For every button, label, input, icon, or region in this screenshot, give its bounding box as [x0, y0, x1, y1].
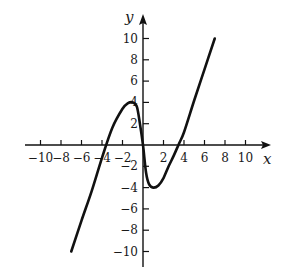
x-tick-label: −6: [73, 151, 91, 165]
y-tick-label: 8: [130, 53, 138, 67]
y-tick-label: −4: [120, 181, 138, 195]
function-graph: −10−8−6−4−2246810 108642−2−4−6−8−10 x y: [0, 0, 289, 279]
y-tick-label: 10: [123, 32, 138, 46]
x-tick-label: 6: [201, 151, 209, 165]
y-tick-label: 2: [130, 117, 138, 131]
x-tick-label: 8: [221, 151, 229, 165]
y-tick-label: −6: [120, 202, 138, 216]
x-tick-label: −10: [28, 151, 53, 165]
y-axis: [139, 14, 149, 267]
x-tick-label: 10: [238, 151, 253, 165]
x-axis-label: x: [263, 150, 272, 168]
y-tick-label: −10: [113, 245, 138, 259]
y-tick-label: 6: [130, 74, 138, 88]
x-axis: [25, 140, 271, 149]
y-tick-label: −8: [120, 223, 138, 237]
y-axis-label: y: [124, 8, 134, 26]
x-tick-label: 4: [180, 151, 188, 165]
x-tick-labels: −10−8−6−4−2246810: [28, 151, 253, 165]
x-tick-label: −8: [52, 151, 70, 165]
y-tick-label: −2: [120, 159, 138, 173]
x-tick-label: 2: [160, 151, 168, 165]
